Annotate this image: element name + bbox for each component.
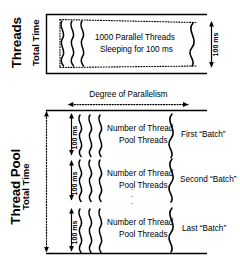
top-total-time-label: Total Time	[31, 17, 41, 69]
batch-1-squiggle-2	[89, 115, 92, 157]
batch-2-squiggle-2	[89, 160, 92, 202]
batch-3-body-line-1: Number of Thread	[107, 218, 173, 228]
top-body-line-1: 1000 Parallel Threads	[95, 33, 175, 43]
batch-3-label: Last “Batch”	[182, 224, 226, 234]
batch-2-duration-label: 100 ms	[71, 168, 78, 200]
thread-pool-comparison-diagram: Threads Total Time 1000 Parallel Threads…	[0, 0, 240, 263]
batch-3-squiggle-2	[89, 209, 92, 253]
top-duration-label: 100 ms	[212, 29, 219, 61]
batch-3-squiggle-1	[79, 209, 82, 253]
batch-3-body-line-2: Pool Threads	[119, 230, 168, 240]
batch-1-squiggle-1	[79, 115, 82, 157]
batch-3-trailing-squiggle	[169, 208, 173, 252]
top-body-line-2: Sleeping for 100 ms	[100, 45, 173, 55]
thread-squiggle-1	[61, 21, 64, 66]
top-panel-group	[46, 14, 212, 74]
batch-2-body-line-1: Number of Thread	[107, 169, 173, 179]
ellipsis-dot-3: ·	[127, 200, 137, 207]
top-trailing-squiggle	[190, 23, 194, 66]
thread-squiggle-2	[71, 21, 74, 66]
batch-1-trailing-squiggle	[169, 114, 173, 158]
top-wedge-lower-dotted-edge	[60, 66, 196, 68]
thread-squiggle-3	[81, 21, 84, 66]
bottom-total-time-label: Total Time	[21, 158, 31, 216]
degree-of-parallelism-label: Degree of Parallelism	[69, 90, 188, 99]
batch-ellipsis: · · ·	[127, 186, 137, 207]
batch-2-squiggle-1	[79, 160, 82, 202]
batch-3-squiggle-3	[99, 209, 102, 253]
batch-2-trailing-squiggle	[169, 159, 173, 202]
top-wedge-upper-dotted-edge	[60, 20, 196, 23]
batch-2-squiggle-3	[99, 160, 102, 202]
batch-1-squiggle-3	[99, 115, 102, 157]
top-section-title: Threads	[10, 17, 24, 69]
batch-1-body-line-1: Number of Thread	[107, 124, 173, 134]
top-thread-squiggles	[61, 21, 84, 66]
batch-1-duration-label: 100 ms	[71, 122, 78, 154]
batch-3-thread-squiggles	[79, 209, 102, 253]
batch-2-label: Second “Batch”	[180, 175, 236, 185]
batch-1-thread-squiggles	[79, 115, 102, 157]
batch-3-duration-label: 100 ms	[71, 217, 78, 249]
batch-1-body-line-2: Pool Threads	[119, 136, 168, 146]
batch-1-label: First “Batch”	[181, 130, 226, 140]
batch-2-thread-squiggles	[79, 160, 102, 202]
